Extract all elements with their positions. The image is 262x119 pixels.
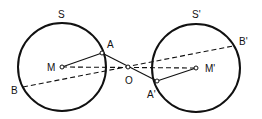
segment-A_prime-M_prime bbox=[157, 68, 196, 81]
point-A-marker bbox=[100, 51, 104, 55]
point-label-A: A bbox=[107, 39, 114, 50]
labels: SS'MM'OAA'BB' bbox=[11, 9, 248, 100]
point-label-A_prime: A' bbox=[147, 89, 156, 100]
point-M-marker bbox=[60, 65, 64, 69]
point-label-O: O bbox=[125, 75, 133, 86]
reflection-diagram: SS'MM'OAA'BB' bbox=[0, 0, 262, 119]
point-label-B: B bbox=[11, 85, 18, 96]
point-O-marker bbox=[126, 65, 130, 69]
point-M_prime-marker bbox=[194, 66, 198, 70]
circle-label-S: S bbox=[58, 9, 65, 20]
point-label-M_prime: M' bbox=[205, 63, 215, 74]
circle-label-S_prime: S' bbox=[192, 9, 201, 20]
point-label-M: M bbox=[47, 62, 55, 73]
point-label-B_prime: B' bbox=[239, 36, 248, 47]
segment-M-A bbox=[62, 53, 102, 67]
point-A_prime-marker bbox=[155, 79, 159, 83]
